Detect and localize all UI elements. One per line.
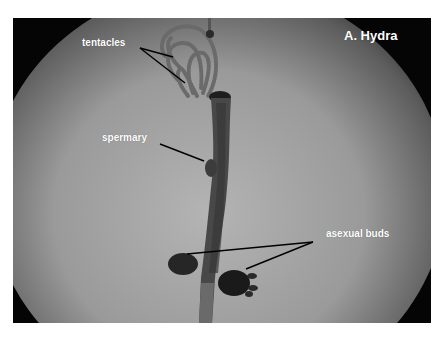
spermary-shape — [205, 159, 217, 177]
micrograph-svg — [13, 18, 431, 323]
micrograph-photo — [13, 18, 431, 323]
label-tentacles: tentacles — [82, 37, 125, 48]
bud-left-shape — [168, 253, 198, 275]
figure-title: A. Hydra — [344, 28, 397, 43]
label-asexual-buds: asexual buds — [326, 228, 389, 239]
label-spermary: spermary — [102, 132, 147, 143]
